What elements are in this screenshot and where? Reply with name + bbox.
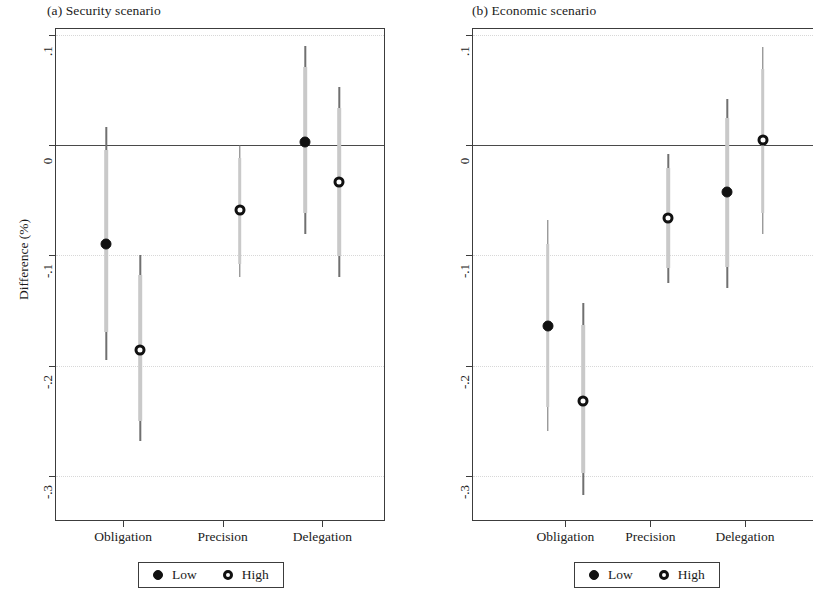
legend-label-high: High xyxy=(678,567,705,583)
y-axis-tick-label: 0 xyxy=(457,144,473,178)
x-axis-tick-label: Obligation xyxy=(94,529,152,545)
panel-a-y-axis-title: Difference (%) xyxy=(16,219,32,300)
legend-item-high: High xyxy=(659,567,705,583)
data-point-marker xyxy=(757,135,768,146)
x-axis-tick-label: Delegation xyxy=(293,529,352,545)
legend-label-low: Low xyxy=(608,567,633,583)
gridline xyxy=(473,255,813,256)
x-axis-tick xyxy=(745,520,746,527)
data-point-marker xyxy=(542,320,553,331)
legend-panel-b: Low High xyxy=(574,562,720,588)
gridline xyxy=(56,476,384,477)
x-axis-tick xyxy=(223,520,224,527)
x-axis-tick-label: Precision xyxy=(197,529,247,545)
filled-circle-icon xyxy=(153,570,163,580)
y-axis-tick-label: -.2 xyxy=(40,365,56,399)
data-point-marker xyxy=(722,187,733,198)
figure-root: (a) Security scenario Difference (%) .10… xyxy=(0,0,813,592)
x-axis-tick xyxy=(650,520,651,527)
legend-item-low: Low xyxy=(153,567,197,583)
gridline xyxy=(56,35,384,36)
x-axis-tick xyxy=(565,520,566,527)
data-point-marker xyxy=(334,177,345,188)
y-axis-tick-label: .1 xyxy=(40,34,56,68)
y-axis-tick-label: -.3 xyxy=(457,475,473,509)
panel-economic-scenario: (b) Economic scenario Difference (%) .10… xyxy=(417,0,813,548)
open-circle-icon xyxy=(223,570,233,580)
y-axis-tick-label: -.1 xyxy=(40,254,56,288)
data-point-marker xyxy=(663,212,674,223)
x-axis-tick-label: Precision xyxy=(625,529,675,545)
y-axis-tick-label: -.2 xyxy=(457,365,473,399)
legend-panel-a: Low High xyxy=(138,562,284,588)
legend-label-low: Low xyxy=(172,567,197,583)
y-axis-tick-label: -.3 xyxy=(40,475,56,509)
gridline xyxy=(56,366,384,367)
legend-item-low: Low xyxy=(589,567,633,583)
data-point-marker xyxy=(135,345,146,356)
x-axis-tick xyxy=(322,520,323,527)
data-point-marker xyxy=(578,395,589,406)
x-axis-tick-label: Obligation xyxy=(537,529,595,545)
gridline xyxy=(473,476,813,477)
panel-b-plot-area: .10-.1-.2-.3ObligationPrecisionDelegatio… xyxy=(472,28,813,521)
gridline xyxy=(473,366,813,367)
x-axis-tick-label: Delegation xyxy=(715,529,774,545)
panel-a-plot-area: .10-.1-.2-.3ObligationPrecisionDelegatio… xyxy=(55,28,385,521)
x-axis-tick xyxy=(123,520,124,527)
y-axis-tick-label: 0 xyxy=(40,144,56,178)
data-point-marker xyxy=(300,136,311,147)
gridline xyxy=(473,35,813,36)
y-axis-tick-label: .1 xyxy=(457,34,473,68)
panel-security-scenario: (a) Security scenario Difference (%) .10… xyxy=(0,0,410,548)
panel-a-title: (a) Security scenario xyxy=(47,3,161,19)
panel-b-title: (b) Economic scenario xyxy=(472,3,596,19)
open-circle-icon xyxy=(659,570,669,580)
y-axis-tick-label: -.1 xyxy=(457,254,473,288)
data-point-marker xyxy=(234,204,245,215)
legend-label-high: High xyxy=(242,567,269,583)
data-point-marker xyxy=(101,239,112,250)
legend-item-high: High xyxy=(223,567,269,583)
filled-circle-icon xyxy=(589,570,599,580)
